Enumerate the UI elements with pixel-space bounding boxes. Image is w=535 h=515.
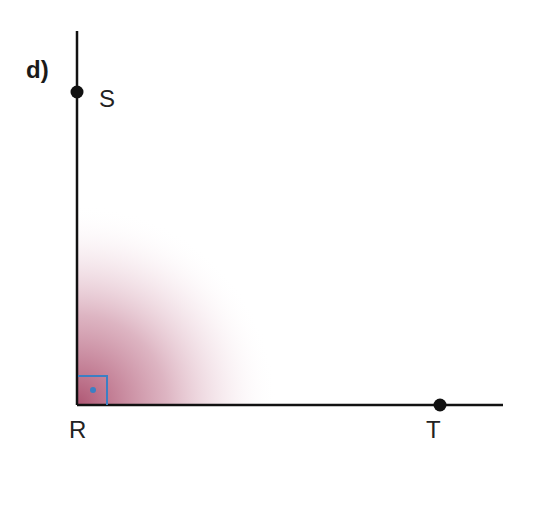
point-label-t: T [426, 416, 441, 444]
point-label-r: R [69, 416, 86, 444]
angle-shading [77, 205, 287, 405]
point-s [71, 86, 84, 99]
point-t [434, 399, 447, 412]
point-label-s: S [99, 85, 115, 113]
right-angle-dot [90, 387, 96, 393]
part-label: d) [26, 56, 49, 84]
